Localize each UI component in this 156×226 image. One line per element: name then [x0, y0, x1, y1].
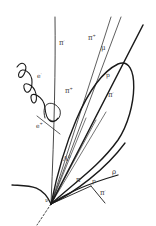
label-pi-plus-upper: π+ — [88, 35, 96, 42]
label-pi-minus-vertical: π- — [59, 40, 65, 47]
particle-event-diagram: π- π+ μ e- π+ p π- e+ Λ0 ρ π- p π- ν — [0, 0, 156, 226]
label-p-vertex: p — [92, 178, 96, 184]
label-p-in-loop: p — [106, 72, 110, 78]
label-neutrino: ν — [45, 197, 49, 203]
label-pi-minus-branch: π- — [100, 190, 106, 197]
pi-minus-vertical-track — [51, 17, 55, 204]
label-positron: e+ — [36, 123, 43, 129]
label-electron-spiral: e- — [37, 73, 42, 79]
label-pi-plus-mid: π+ — [65, 88, 73, 95]
label-lambda: Λ0 — [63, 156, 71, 163]
label-pi-minus-in-loop: π- — [108, 92, 114, 99]
tracks-canvas — [0, 0, 156, 226]
inner-track-3 — [51, 112, 106, 204]
label-mu: μ — [101, 45, 106, 52]
neutrino-dashed-track — [37, 204, 51, 225]
label-pi-minus-bottom: π- — [76, 177, 82, 184]
label-rho: ρ — [112, 169, 116, 176]
